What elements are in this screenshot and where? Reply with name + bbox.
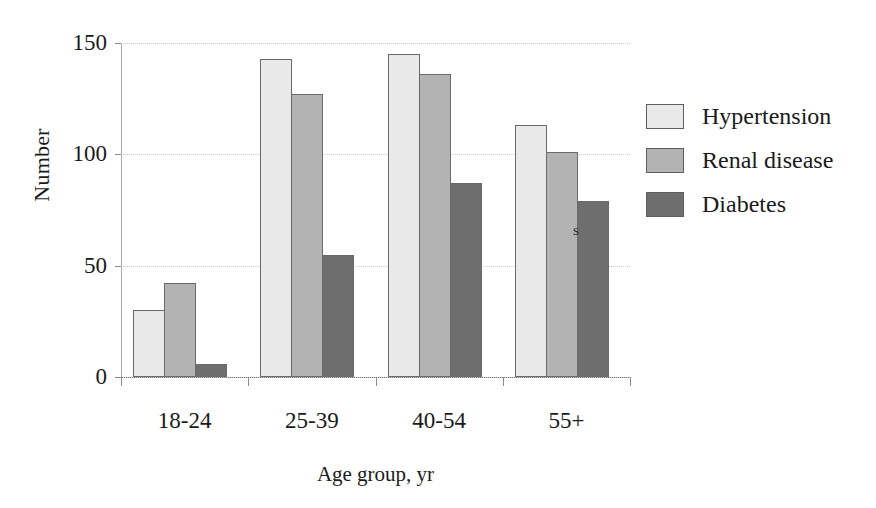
- y-tick-label-100: 100: [37, 142, 107, 165]
- y-tick-label-0: 0: [37, 365, 107, 388]
- bar-hypertension-18-24: [133, 310, 165, 377]
- legend: HypertensionRenal diseaseDiabetes: [646, 94, 876, 226]
- plot-area: [121, 43, 630, 377]
- bar-diabetes-18-24: [195, 364, 227, 377]
- x-tick-label-18-24: 18-24: [115, 408, 255, 434]
- legend-item-hypertension: Hypertension: [646, 94, 876, 138]
- y-tick-label-150: 150: [37, 31, 107, 54]
- x-tick-label-25-39: 25-39: [242, 408, 382, 434]
- bar-group-40-54: [388, 43, 482, 377]
- bar-group-55+: [515, 43, 609, 377]
- bar-diabetes-25-39: [322, 255, 354, 377]
- legend-label-diabetes: Diabetes: [702, 191, 786, 218]
- bar-diabetes-40-54: [450, 183, 482, 377]
- x-tick-mark-4: [630, 377, 631, 386]
- x-tick-mark-3: [503, 377, 504, 386]
- legend-swatch-renal-disease: [646, 148, 684, 173]
- x-tick-mark-1: [248, 377, 249, 386]
- bar-hypertension-40-54: [388, 54, 420, 377]
- y-tick-label-50: 50: [37, 254, 107, 277]
- stray-glyph-artifact: s: [573, 222, 579, 239]
- legend-label-renal-disease: Renal disease: [702, 147, 833, 174]
- bar-group-25-39: [260, 43, 354, 377]
- bar-renal-disease-25-39: [291, 94, 323, 377]
- legend-item-diabetes: Diabetes: [646, 182, 876, 226]
- legend-item-renal-disease: Renal disease: [646, 138, 876, 182]
- x-tick-mark-2: [376, 377, 377, 386]
- bar-hypertension-25-39: [260, 59, 292, 377]
- bar-hypertension-55+: [515, 125, 547, 377]
- x-tick-label-40-54: 40-54: [369, 408, 509, 434]
- x-tick-mark-0: [121, 377, 122, 386]
- bar-chart-figure: Number 050100150 18-2425-3940-5455+ Age …: [0, 0, 876, 508]
- legend-label-hypertension: Hypertension: [702, 103, 831, 130]
- legend-swatch-hypertension: [646, 104, 684, 129]
- x-tick-label-55+: 55+: [496, 408, 636, 434]
- bar-renal-disease-55+: [546, 152, 578, 377]
- legend-swatch-diabetes: [646, 192, 684, 217]
- bar-renal-disease-40-54: [419, 74, 451, 377]
- bar-group-18-24: [133, 43, 227, 377]
- bar-renal-disease-18-24: [164, 283, 196, 377]
- bar-diabetes-55+: [577, 201, 609, 377]
- x-axis-title: Age group, yr: [121, 462, 630, 487]
